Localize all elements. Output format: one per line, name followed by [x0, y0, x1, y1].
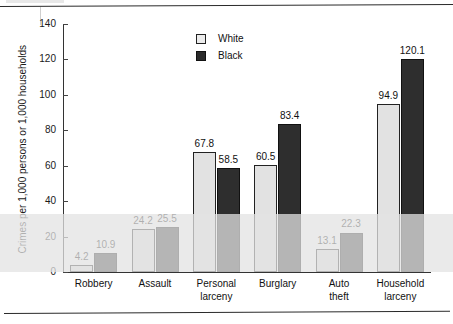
y-axis-tick: [63, 272, 68, 273]
bar-white-robbery: [70, 265, 93, 272]
y-axis-tick-label: 20: [30, 231, 56, 242]
y-axis-title: Crimes per 1,000 persons or 1,000 househ…: [17, 54, 28, 254]
y-axis-tick-label: 0: [30, 266, 56, 277]
x-axis-category-label-line: larceny: [178, 290, 255, 303]
y-axis-tick-label: 120: [30, 53, 56, 64]
grouped-bar-chart: 020406080100120140 Crimes per 1,000 pers…: [0, 0, 453, 324]
bar-white-personal-larceny: [193, 152, 216, 272]
bar-white-auto-theft: [316, 249, 339, 272]
x-axis-category-label-line: Household: [362, 277, 439, 290]
legend-entry-white: White: [196, 30, 244, 47]
bar-value-label: 22.3: [334, 218, 369, 229]
y-axis-tick-label: 60: [30, 160, 56, 171]
legend-entry-black: Black: [196, 47, 244, 64]
y-axis-tick-label: 140: [30, 18, 56, 29]
x-axis-category-label-line: larceny: [362, 290, 439, 303]
y-axis-tick-label: 40: [30, 195, 56, 206]
legend-swatch-icon: [196, 51, 206, 61]
plot-area: [63, 24, 431, 272]
bar-value-label: 25.5: [150, 213, 185, 224]
bar-value-label: 13.1: [310, 235, 345, 246]
y-axis-tick-label: 100: [30, 89, 56, 100]
x-axis-baseline: [63, 272, 431, 273]
bar-white-assault: [132, 229, 155, 272]
legend-swatch-icon: [196, 34, 206, 44]
bar-value-label: 120.1: [395, 45, 430, 56]
bar-black-personal-larceny: [217, 168, 240, 272]
bar-value-label: 4.2: [64, 251, 99, 262]
chart-legend: WhiteBlack: [196, 30, 244, 64]
bar-value-label: 10.9: [88, 239, 123, 250]
bar-white-household-larceny: [377, 104, 400, 272]
legend-label: Black: [218, 50, 242, 61]
y-axis-tick-label: 80: [30, 124, 56, 135]
bar-white-burglary: [254, 165, 277, 272]
bar-black-burglary: [278, 124, 301, 272]
bar-value-label: 58.5: [211, 154, 246, 165]
bar-value-label: 67.8: [187, 138, 222, 149]
bar-black-assault: [156, 227, 179, 272]
bar-value-label: 83.4: [272, 110, 307, 121]
legend-label: White: [218, 33, 244, 44]
x-axis-category-label: Householdlarceny: [362, 277, 439, 303]
bar-value-label: 60.5: [248, 151, 283, 162]
bar-value-label: 94.9: [371, 90, 406, 101]
